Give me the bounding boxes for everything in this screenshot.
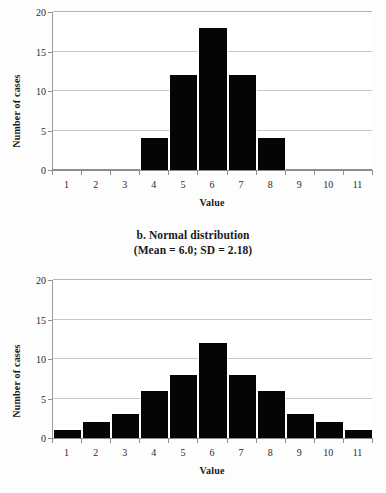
x-tick-label-8: 8 bbox=[255, 447, 285, 458]
x-tick-mark-11 bbox=[372, 438, 373, 443]
y-tick-label-5: 5 bbox=[6, 125, 46, 136]
x-tick-mark-2 bbox=[110, 438, 111, 443]
plot-area-bottom bbox=[52, 280, 372, 438]
x-tick-mark-3 bbox=[139, 438, 140, 443]
x-tick-label-10: 10 bbox=[313, 179, 343, 190]
chart-top: Number of cases 05101520 1234567891011 V… bbox=[0, 0, 386, 222]
y-tick-label-10: 10 bbox=[6, 354, 46, 365]
y-tick-mark-20 bbox=[48, 280, 52, 281]
figure-caption: b. Normal distribution (Mean = 6.0; SD =… bbox=[0, 228, 386, 258]
x-tick-mark-7 bbox=[256, 438, 257, 443]
y-tick-label-15: 15 bbox=[6, 314, 46, 325]
plot-area-top bbox=[52, 12, 372, 170]
x-tick-label-3: 3 bbox=[110, 447, 140, 458]
y-tick-label-20: 20 bbox=[6, 7, 46, 18]
x-tick-mark-3 bbox=[139, 170, 140, 175]
bar-series-top bbox=[53, 12, 372, 170]
x-tick-mark-8 bbox=[285, 170, 286, 175]
bar-10 bbox=[315, 422, 344, 438]
x-tick-mark-10 bbox=[343, 438, 344, 443]
x-tick-label-6: 6 bbox=[197, 447, 227, 458]
x-tick-mark-5 bbox=[197, 170, 198, 175]
y-tick-label-15: 15 bbox=[6, 46, 46, 57]
x-tick-label-1: 1 bbox=[52, 179, 82, 190]
bar-6 bbox=[198, 28, 227, 170]
bar-11 bbox=[344, 430, 373, 438]
x-tick-label-2: 2 bbox=[81, 447, 111, 458]
x-tick-mark-4 bbox=[168, 438, 169, 443]
bar-7 bbox=[228, 375, 257, 438]
x-tick-mark-4 bbox=[168, 170, 169, 175]
histogram-figure-top: Number of cases 05101520 1234567891011 V… bbox=[0, 0, 386, 222]
x-tick-label-7: 7 bbox=[226, 447, 256, 458]
bar-3 bbox=[111, 414, 140, 438]
x-tick-mark-2 bbox=[110, 170, 111, 175]
y-tick-label-0: 0 bbox=[6, 433, 46, 444]
histogram-figure-bottom: Number of cases 05101520 1234567891011 V… bbox=[0, 268, 386, 493]
x-tick-mark-1 bbox=[81, 438, 82, 443]
y-tick-mark-20 bbox=[48, 12, 52, 13]
x-tick-label-6: 6 bbox=[197, 179, 227, 190]
bar-series-bottom bbox=[53, 280, 372, 438]
x-axis-title-top: Value bbox=[52, 197, 372, 208]
y-tick-label-5: 5 bbox=[6, 393, 46, 404]
caption-line-2: (Mean = 6.0; SD = 2.18) bbox=[0, 243, 386, 258]
x-tick-mark-6 bbox=[227, 170, 228, 175]
caption-line-1: b. Normal distribution bbox=[0, 228, 386, 243]
bar-7 bbox=[228, 75, 257, 170]
bar-2 bbox=[82, 422, 111, 438]
x-axis-title-bottom: Value bbox=[52, 465, 372, 476]
x-axis-line-top bbox=[52, 170, 372, 171]
y-axis-title-top: Number of cases bbox=[11, 51, 22, 171]
y-tick-label-0: 0 bbox=[6, 165, 46, 176]
x-tick-mark-10 bbox=[343, 170, 344, 175]
bar-5 bbox=[169, 375, 198, 438]
x-tick-mark-7 bbox=[256, 170, 257, 175]
bar-8 bbox=[257, 391, 286, 438]
y-tick-mark-15 bbox=[48, 320, 52, 321]
x-tick-mark-0 bbox=[52, 170, 53, 175]
y-tick-label-10: 10 bbox=[6, 86, 46, 97]
bar-5 bbox=[169, 75, 198, 170]
x-tick-label-9: 9 bbox=[284, 447, 314, 458]
x-tick-label-5: 5 bbox=[168, 179, 198, 190]
x-tick-mark-1 bbox=[81, 170, 82, 175]
x-tick-label-9: 9 bbox=[284, 179, 314, 190]
bar-4 bbox=[140, 391, 169, 438]
y-axis-title-bottom: Number of cases bbox=[11, 321, 22, 441]
x-tick-label-5: 5 bbox=[168, 447, 198, 458]
bar-4 bbox=[140, 138, 169, 170]
bar-8 bbox=[257, 138, 286, 170]
bar-6 bbox=[198, 343, 227, 438]
x-tick-mark-5 bbox=[197, 438, 198, 443]
y-tick-label-20: 20 bbox=[6, 275, 46, 286]
x-tick-label-11: 11 bbox=[342, 447, 372, 458]
y-tick-mark-5 bbox=[48, 131, 52, 132]
x-tick-label-4: 4 bbox=[139, 447, 169, 458]
x-tick-mark-6 bbox=[227, 438, 228, 443]
y-tick-mark-10 bbox=[48, 359, 52, 360]
x-tick-mark-9 bbox=[314, 438, 315, 443]
x-tick-mark-0 bbox=[52, 438, 53, 443]
bar-1 bbox=[53, 430, 82, 438]
y-tick-mark-10 bbox=[48, 91, 52, 92]
x-tick-label-2: 2 bbox=[81, 179, 111, 190]
y-tick-mark-5 bbox=[48, 399, 52, 400]
y-tick-mark-15 bbox=[48, 52, 52, 53]
x-tick-label-4: 4 bbox=[139, 179, 169, 190]
chart-bottom: Number of cases 05101520 1234567891011 V… bbox=[0, 268, 386, 493]
x-tick-mark-8 bbox=[285, 438, 286, 443]
x-tick-mark-9 bbox=[314, 170, 315, 175]
x-tick-label-1: 1 bbox=[52, 447, 82, 458]
x-tick-label-10: 10 bbox=[313, 447, 343, 458]
x-tick-label-7: 7 bbox=[226, 179, 256, 190]
bar-9 bbox=[286, 414, 315, 438]
x-tick-label-3: 3 bbox=[110, 179, 140, 190]
x-tick-label-8: 8 bbox=[255, 179, 285, 190]
x-tick-mark-11 bbox=[372, 170, 373, 175]
x-axis-line-bottom bbox=[52, 438, 372, 439]
x-tick-label-11: 11 bbox=[342, 179, 372, 190]
